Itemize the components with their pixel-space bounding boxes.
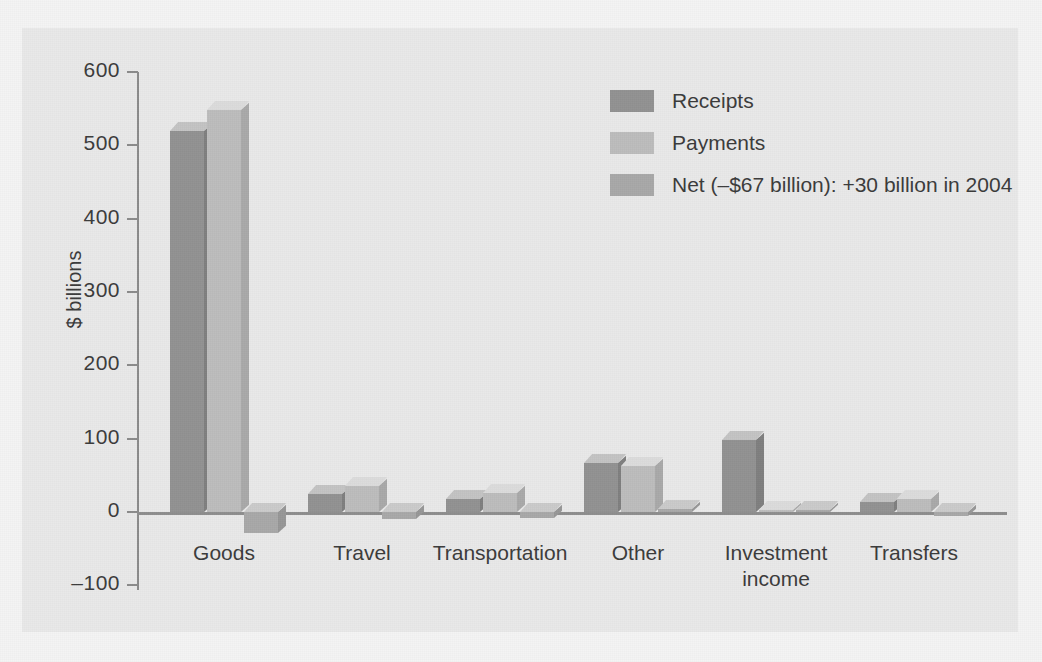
y-tick-mark xyxy=(127,364,138,366)
x-axis-label-line: income xyxy=(676,566,876,592)
y-tick-label: 300 xyxy=(58,278,120,302)
bar-face xyxy=(207,110,241,512)
bar-face xyxy=(308,494,342,512)
bar-payments[interactable] xyxy=(207,110,241,512)
bar-receipts[interactable] xyxy=(308,494,342,512)
y-tick-label: 400 xyxy=(58,205,120,229)
y-tick-mark xyxy=(127,218,138,220)
bar-face xyxy=(860,502,894,512)
legend-label-net: Net (–$67 billion): +30 billion in 2004 xyxy=(672,173,1012,197)
legend-label-payments: Payments xyxy=(672,131,765,155)
bar-face xyxy=(244,512,278,533)
bar-receipts[interactable] xyxy=(722,440,756,512)
bar-payments[interactable] xyxy=(345,486,379,512)
y-tick-label: 200 xyxy=(58,351,120,375)
legend-swatch-receipts xyxy=(610,90,654,112)
bar-face xyxy=(934,512,968,516)
y-tick-label-wrap: 100 xyxy=(42,439,120,440)
legend-item-net[interactable]: Net (–$67 billion): +30 billion in 2004 xyxy=(610,164,1012,206)
chart-legend: Receipts Payments Net (–$67 billion): +3… xyxy=(610,80,1012,206)
chart-page: $ billions 6005004003002001000–100 Goods… xyxy=(0,0,1042,662)
bar-side-face xyxy=(241,103,249,512)
bar-receipts[interactable] xyxy=(170,131,204,512)
bar-face xyxy=(796,510,830,512)
bar-face xyxy=(897,499,931,512)
bar-face xyxy=(584,463,618,512)
chart-panel: $ billions 6005004003002001000–100 Goods… xyxy=(22,28,1018,632)
bar-payments[interactable] xyxy=(483,493,517,512)
bar-face xyxy=(759,510,793,512)
bar-face xyxy=(520,512,554,518)
bar-receipts[interactable] xyxy=(584,463,618,512)
bar-face xyxy=(658,509,692,512)
legend-item-payments[interactable]: Payments xyxy=(610,122,1012,164)
y-tick-label-wrap: 0 xyxy=(42,512,120,513)
bar-net[interactable] xyxy=(658,509,692,512)
y-tick-mark xyxy=(127,71,138,73)
plot-area: $ billions 6005004003002001000–100 Goods… xyxy=(22,28,1018,632)
y-tick-label: 600 xyxy=(58,58,120,82)
legend-item-receipts[interactable]: Receipts xyxy=(610,80,1012,122)
y-tick-mark xyxy=(127,584,138,586)
y-tick-label-wrap: 500 xyxy=(42,145,120,146)
bar-payments[interactable] xyxy=(759,510,793,512)
y-tick-label: 500 xyxy=(58,131,120,155)
y-tick-mark xyxy=(127,511,138,513)
x-axis-label: Transfers xyxy=(814,540,1014,566)
y-tick-label-wrap: 600 xyxy=(42,72,120,73)
y-tick-mark xyxy=(127,438,138,440)
bar-net[interactable] xyxy=(244,512,278,533)
y-tick-label-wrap: 300 xyxy=(42,292,120,293)
bar-net[interactable] xyxy=(934,512,968,516)
y-tick-label: 100 xyxy=(58,425,120,449)
y-tick-mark xyxy=(127,291,138,293)
bar-face xyxy=(722,440,756,512)
bar-face xyxy=(382,512,416,519)
bar-face xyxy=(446,499,480,512)
legend-label-receipts: Receipts xyxy=(672,89,754,113)
x-axis-label-line: Transfers xyxy=(814,540,1014,566)
bar-side-face xyxy=(756,433,764,512)
legend-swatch-payments xyxy=(610,132,654,154)
bar-net[interactable] xyxy=(796,510,830,512)
y-tick-label-wrap: –100 xyxy=(42,585,120,586)
y-tick-mark xyxy=(127,144,138,146)
y-tick-label: –100 xyxy=(58,571,120,595)
bar-face xyxy=(621,466,655,512)
y-tick-label: 0 xyxy=(58,498,120,522)
bar-receipts[interactable] xyxy=(860,502,894,512)
bar-face xyxy=(345,486,379,512)
bar-face xyxy=(483,493,517,512)
bar-net[interactable] xyxy=(382,512,416,519)
bar-face xyxy=(170,131,204,512)
bar-receipts[interactable] xyxy=(446,499,480,512)
y-tick-label-wrap: 200 xyxy=(42,365,120,366)
legend-swatch-net xyxy=(610,174,654,196)
bar-payments[interactable] xyxy=(897,499,931,512)
bar-payments[interactable] xyxy=(621,466,655,512)
y-tick-label-wrap: 400 xyxy=(42,219,120,220)
bar-net[interactable] xyxy=(520,512,554,518)
